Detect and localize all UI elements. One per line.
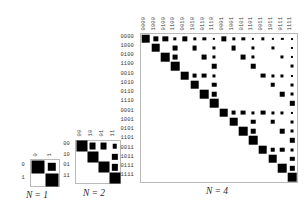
matrix-marker — [291, 112, 293, 114]
row-label: 0101 — [120, 127, 134, 132]
matrix-marker — [271, 37, 273, 39]
column-label: 0111 — [278, 16, 283, 30]
matrix-marker — [290, 101, 294, 105]
column-label: 0101 — [239, 16, 244, 30]
matrix-marker — [278, 164, 287, 173]
matrix-marker — [271, 74, 274, 77]
matrix-marker — [291, 120, 294, 123]
matrix-marker — [239, 127, 248, 136]
matrix-marker — [251, 64, 256, 69]
row-label: 1001 — [120, 118, 134, 123]
matrix-marker — [281, 37, 283, 39]
matrix-marker — [232, 37, 235, 40]
matrix-marker — [181, 71, 190, 80]
matrix-marker — [173, 55, 178, 60]
matrix-marker — [173, 45, 178, 50]
caption-n4: N = 4 — [132, 186, 302, 196]
matrix-n4 — [140, 33, 298, 183]
matrix-marker — [260, 73, 265, 78]
matrix-marker — [213, 37, 215, 39]
matrix-marker — [259, 145, 268, 154]
row-label: 0100 — [120, 53, 134, 58]
matrix-marker — [182, 36, 187, 41]
row-label: 1 — [22, 176, 25, 181]
row-label: 0001 — [120, 109, 134, 114]
column-label: 1000 — [151, 16, 156, 30]
matrix-marker — [213, 74, 216, 77]
matrix-marker — [271, 111, 274, 114]
matrix-marker — [271, 46, 274, 49]
column-label: 1110 — [210, 16, 215, 30]
matrix-marker — [231, 45, 236, 50]
column-label: 0010 — [181, 16, 186, 30]
column-label: 1011 — [268, 16, 273, 30]
matrix-marker — [291, 65, 294, 68]
matrix-marker — [212, 92, 217, 97]
matrix-marker — [163, 36, 168, 41]
matrix-marker — [281, 74, 284, 77]
column-label: 01 — [99, 129, 104, 136]
column-label: 0110 — [200, 16, 205, 30]
row-label: 1101 — [120, 137, 134, 142]
figure-root: 01 01 N = 1 00100111 00100111 N = 2 0000… — [0, 0, 305, 208]
column-label: 0011 — [259, 16, 264, 30]
matrix-marker — [229, 118, 238, 127]
matrix-marker — [291, 56, 293, 58]
matrix-marker — [142, 34, 151, 43]
column-label: 0000 — [142, 16, 147, 30]
matrix-marker — [281, 56, 284, 59]
matrix-marker — [241, 55, 246, 60]
matrix-marker — [231, 110, 236, 115]
row-labels-n2: 00100111 — [55, 140, 73, 184]
matrix-marker — [190, 81, 199, 90]
matrix-marker — [242, 37, 245, 40]
matrix-marker — [173, 37, 176, 40]
matrix-marker — [280, 129, 285, 134]
matrix-marker — [32, 160, 45, 173]
matrix-marker — [252, 37, 254, 39]
matrix-marker — [249, 136, 258, 145]
row-label: 1010 — [120, 81, 134, 86]
row-labels-n4: 0000100001001100001010100110111000011001… — [112, 33, 137, 183]
matrix-marker — [270, 147, 275, 152]
matrix-marker — [76, 141, 87, 152]
matrix-marker — [203, 37, 206, 40]
matrix-marker — [213, 56, 216, 59]
row-label: 01 — [63, 164, 70, 169]
matrix-marker — [291, 47, 293, 49]
matrix-marker — [291, 75, 293, 77]
row-label: 0 — [22, 163, 25, 168]
matrix-marker — [221, 36, 226, 41]
matrix-marker — [252, 56, 255, 59]
matrix-marker — [171, 62, 180, 71]
matrix-marker — [288, 173, 297, 182]
column-label: 1 — [48, 153, 53, 156]
matrix-marker — [210, 99, 219, 108]
matrix-marker — [270, 120, 275, 125]
matrix-marker — [252, 46, 255, 49]
matrix-marker — [291, 148, 294, 151]
matrix-marker — [268, 155, 277, 164]
row-label: 0010 — [120, 72, 134, 77]
matrix-marker — [87, 151, 98, 162]
row-label: 1000 — [120, 44, 134, 49]
column-label: 1100 — [171, 16, 176, 30]
matrix-marker — [202, 73, 207, 78]
row-label: 1100 — [120, 63, 134, 68]
matrix-marker — [241, 110, 246, 115]
column-label: 0 — [34, 153, 39, 156]
matrix-marker — [251, 129, 256, 134]
matrix-marker — [212, 83, 217, 88]
row-label: 0111 — [120, 164, 134, 169]
column-label: 0001 — [220, 16, 225, 30]
matrix-marker — [252, 111, 255, 114]
matrix-marker — [291, 83, 294, 86]
matrix-marker — [291, 93, 294, 96]
matrix-marker — [290, 157, 294, 161]
column-label: 1010 — [190, 16, 195, 30]
row-label: 0110 — [120, 90, 134, 95]
matrix-marker — [151, 44, 160, 53]
matrix-marker — [100, 143, 107, 150]
column-label: 1111 — [288, 16, 293, 30]
matrix-marker — [291, 38, 293, 40]
